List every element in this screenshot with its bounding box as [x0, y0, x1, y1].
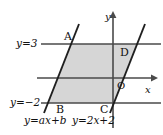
label-point-a: A — [64, 31, 72, 42]
geometry-figure: y=3 y=−2 A D B C O x y y=ax+b y=2x+2 — [0, 0, 163, 135]
label-origin: O — [117, 81, 125, 91]
label-equation-2x-plus-2: y=2x+2 — [72, 115, 115, 126]
label-x-axis: x — [145, 85, 151, 95]
label-equation-ax-plus-b: y=ax+b — [24, 115, 66, 126]
label-y-axis: y — [105, 12, 111, 22]
label-y-equals-minus-2: y=−2 — [10, 97, 40, 108]
x-axis-arrow-icon — [151, 75, 158, 82]
label-y-equals-3: y=3 — [16, 38, 37, 49]
label-point-d: D — [120, 47, 129, 58]
